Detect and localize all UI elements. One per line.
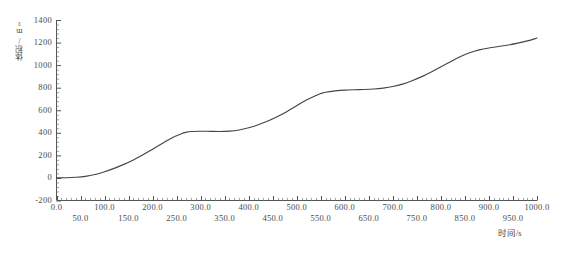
- x-tick-label: 250.0: [166, 214, 187, 223]
- x-tick-label: 850.0: [455, 214, 476, 223]
- x-tick-label: 900.0: [479, 203, 500, 212]
- x-tick-label: 600.0: [334, 203, 355, 212]
- x-tick-label: 950.0: [503, 214, 524, 223]
- x-tick-label: 300.0: [190, 203, 211, 212]
- x-tick-label: 200.0: [142, 203, 163, 212]
- x-axis-title: 时间/s: [498, 228, 522, 238]
- x-tick-label: 800.0: [431, 203, 452, 212]
- x-tick-label-group: 0.050.0100.0150.0200.0250.0300.0350.0400…: [0, 0, 569, 255]
- x-tick-label: 150.0: [118, 214, 139, 223]
- x-tick-label: 750.0: [407, 214, 428, 223]
- x-tick-label: 450.0: [262, 214, 283, 223]
- x-tick-label: 500.0: [286, 203, 307, 212]
- x-tick-label: 650.0: [359, 214, 380, 223]
- x-tick-label: 1000.0: [524, 203, 549, 212]
- x-tick-label: 0.0: [51, 203, 63, 212]
- x-tick-label: 700.0: [383, 203, 404, 212]
- x-tick-label: 50.0: [72, 214, 88, 223]
- x-tick-label: 350.0: [214, 214, 235, 223]
- x-tick-label: 400.0: [238, 203, 259, 212]
- chart-container: 体积/m³ -2000200400600800100012001400 0.05…: [0, 0, 569, 255]
- x-tick-label: 550.0: [310, 214, 331, 223]
- x-tick-label: 100.0: [94, 203, 115, 212]
